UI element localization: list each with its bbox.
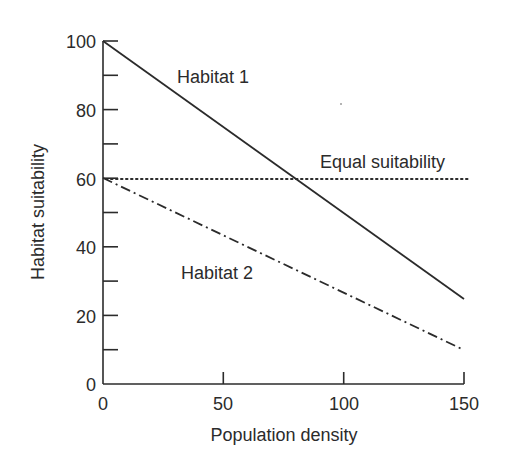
y-tick-label: 20 (76, 307, 96, 327)
y-tick-label: 80 (76, 101, 96, 121)
speck (340, 103, 342, 105)
axes (103, 41, 464, 384)
series-habitat-2 (103, 178, 464, 350)
label-habitat-1: Habitat 1 (177, 67, 249, 87)
y-tick-label: 60 (76, 170, 96, 190)
label-habitat-2: Habitat 2 (181, 263, 253, 283)
y-tick-label: 0 (86, 375, 96, 395)
y-axis-title: Habitat suitability (28, 144, 48, 280)
y-tick-label: 40 (76, 238, 96, 258)
x-axis-title: Population density (210, 425, 357, 445)
chart: 100 80 60 40 20 0 0 50 100 150 Habitat 1… (0, 0, 508, 461)
label-equal-suitability: Equal suitability (320, 152, 445, 172)
x-tick-label: 50 (213, 394, 233, 414)
x-tick-label: 100 (329, 394, 359, 414)
x-tick-label: 150 (449, 394, 479, 414)
x-tick-label: 0 (98, 394, 108, 414)
y-tick-label: 100 (66, 32, 96, 52)
